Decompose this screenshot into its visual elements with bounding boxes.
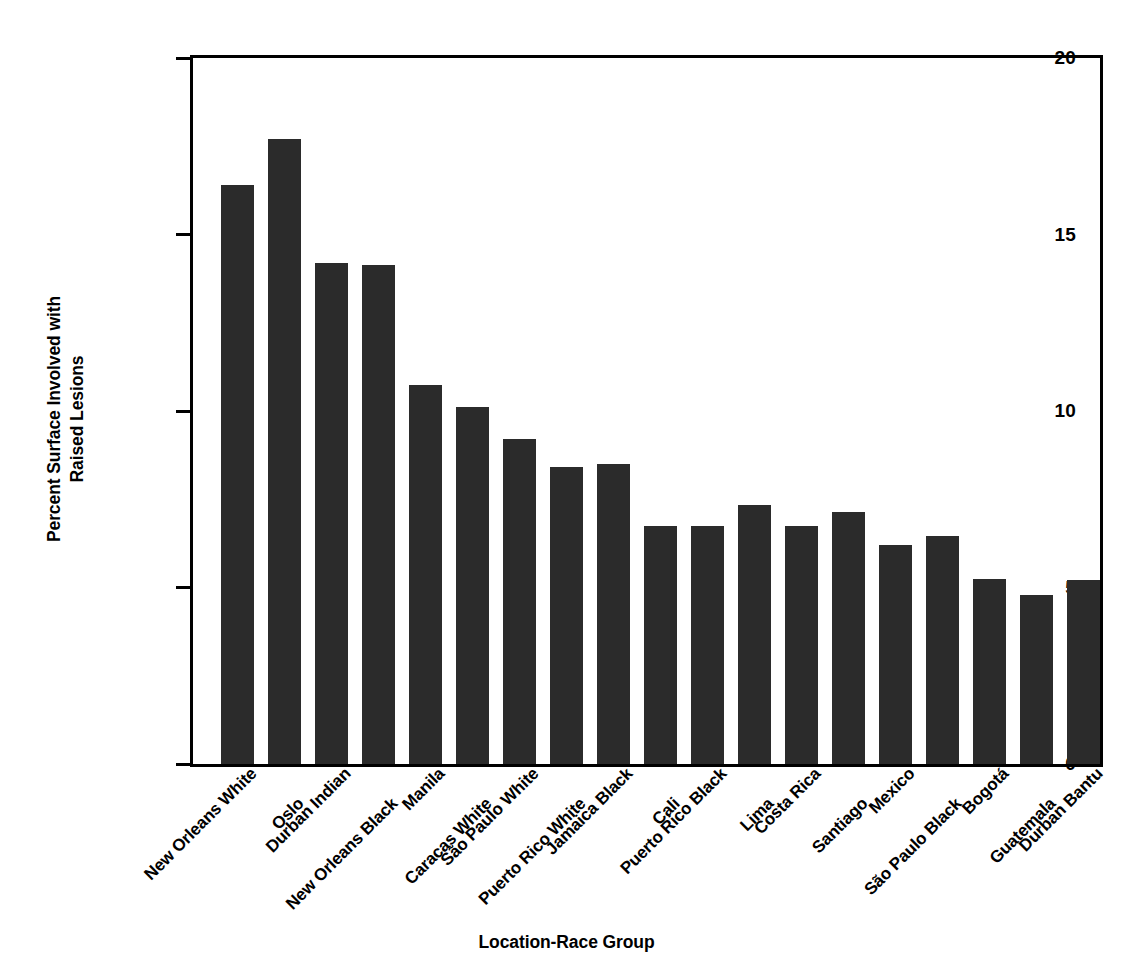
bar [597, 464, 630, 764]
y-axis-tick [176, 57, 193, 60]
x-axis-title: Location-Race Group [0, 932, 1133, 953]
bar [785, 526, 818, 764]
bar [879, 545, 912, 764]
bar [221, 185, 254, 764]
bar [691, 526, 724, 764]
plot-area: 05101520 [190, 55, 1103, 767]
bars-container [193, 58, 1100, 764]
bar [268, 139, 301, 764]
x-axis-tick-label: Manila [398, 764, 449, 815]
x-axis-tick-labels: New Orleans WhiteOsloDurban IndianNew Or… [190, 764, 1097, 924]
bar [362, 265, 395, 764]
x-axis-tick-label: Santiago [808, 794, 872, 858]
bar [550, 467, 583, 764]
y-axis-tick [176, 410, 193, 413]
bar [644, 526, 677, 764]
bar [1067, 580, 1100, 764]
x-axis-tick-label: Jamaica Black [541, 764, 636, 859]
y-axis-title-line-1: Percent Surface Involved with [43, 296, 66, 542]
y-axis-title-line-2: Raised Lesions [66, 356, 89, 483]
bar [973, 579, 1006, 764]
bar [1020, 595, 1053, 764]
bar [832, 512, 865, 764]
bar [315, 263, 348, 764]
x-axis-tick-label: Mexico [865, 764, 919, 818]
bar [926, 536, 959, 764]
y-axis-title: Percent Surface Involved with Raised Les… [44, 249, 88, 589]
y-axis-tick [176, 233, 193, 236]
x-axis-tick-label: New Orleans White [140, 764, 261, 885]
bar [409, 385, 442, 764]
x-axis-tick-label: Bogotá [958, 764, 1013, 819]
bar [503, 439, 536, 764]
bar [738, 505, 771, 764]
y-axis-tick [176, 586, 193, 589]
bar-chart-figure: Percent Surface Involved with Raised Les… [0, 0, 1133, 980]
bar [456, 407, 489, 764]
